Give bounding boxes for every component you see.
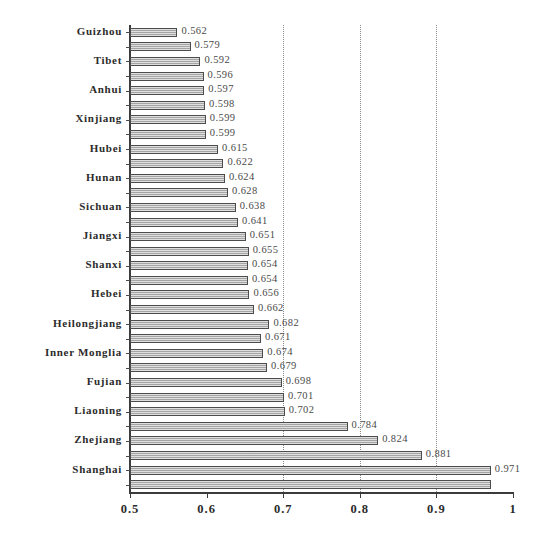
y-axis-tick	[126, 426, 131, 427]
bar[interactable]	[130, 436, 378, 445]
y-axis-tick	[126, 383, 131, 384]
y-axis-tick	[126, 32, 131, 33]
bar[interactable]	[130, 407, 285, 416]
bar-row: 0.641	[0, 218, 546, 227]
bar[interactable]	[130, 393, 284, 402]
category-label: Hunan	[0, 171, 122, 183]
y-axis-tick	[126, 47, 131, 48]
bar-value-label: 0.641	[242, 215, 268, 226]
y-axis-tick	[126, 91, 131, 92]
bar-value-label: 0.628	[232, 185, 258, 196]
bar[interactable]	[130, 57, 200, 66]
x-axis-tick	[436, 492, 437, 498]
bar[interactable]	[130, 145, 218, 154]
bar[interactable]	[130, 378, 282, 387]
y-axis-tick	[126, 266, 131, 267]
bar-row: 0.628	[0, 188, 546, 197]
bar-value-label: 0.596	[208, 69, 234, 80]
bar[interactable]	[130, 276, 248, 285]
bar[interactable]	[130, 466, 491, 475]
bar-value-label: 0.701	[288, 390, 314, 401]
y-axis-tick	[126, 295, 131, 296]
bar[interactable]	[130, 363, 267, 372]
category-label: Tibet	[0, 54, 122, 66]
bar[interactable]	[130, 247, 249, 256]
bar-value-label: 0.784	[352, 419, 378, 430]
bar[interactable]	[130, 188, 228, 197]
bar-value-label: 0.597	[208, 83, 234, 94]
bar[interactable]	[130, 218, 238, 227]
bar[interactable]	[130, 203, 236, 212]
bar-value-label: 0.971	[495, 463, 521, 474]
x-axis-tick	[130, 492, 131, 498]
bar-row: 0.655	[0, 247, 546, 256]
bar-value-label: 0.654	[252, 258, 278, 269]
bar-value-label: 0.624	[229, 171, 255, 182]
bar[interactable]	[130, 232, 246, 241]
bar-value-label: 0.615	[222, 142, 248, 153]
bar-value-label: 0.651	[250, 229, 276, 240]
bar-value-label: 0.656	[253, 287, 279, 298]
bar[interactable]	[130, 422, 348, 431]
y-axis-tick	[126, 76, 131, 77]
bar[interactable]	[130, 86, 204, 95]
category-label: Shanghai	[0, 463, 122, 475]
bar[interactable]	[130, 115, 206, 124]
y-axis-tick	[126, 164, 131, 165]
y-axis-tick	[126, 485, 131, 486]
bar[interactable]	[130, 261, 248, 270]
y-axis-tick	[126, 105, 131, 106]
bar[interactable]	[130, 130, 206, 139]
x-axis-tick-label: 0.6	[197, 502, 216, 517]
category-label: Xinjiang	[0, 112, 122, 124]
y-axis-tick	[126, 368, 131, 369]
bar-value-label: 0.638	[240, 200, 266, 211]
bar[interactable]	[130, 451, 422, 460]
category-label: Hebei	[0, 287, 122, 299]
y-axis-tick	[126, 193, 131, 194]
bar-row: 0.671	[0, 334, 546, 343]
x-axis-tick	[283, 492, 284, 498]
bar-value-label: 0.599	[210, 127, 236, 138]
x-axis-tick-label: 0.8	[350, 502, 369, 517]
bar[interactable]	[130, 320, 269, 329]
category-label: Liaoning	[0, 404, 122, 416]
bar-row: 0.679	[0, 363, 546, 372]
y-axis-tick	[126, 61, 131, 62]
bar-row: 0.599	[0, 130, 546, 139]
bar[interactable]	[130, 72, 204, 81]
bar[interactable]	[130, 159, 223, 168]
bar[interactable]	[130, 28, 177, 37]
bar[interactable]	[130, 174, 225, 183]
y-axis-tick	[126, 324, 131, 325]
x-axis-tick-label: 1	[509, 502, 516, 517]
bar-row: 0.784	[0, 422, 546, 431]
x-axis-tick	[360, 492, 361, 498]
category-label: Heilongjiang	[0, 317, 122, 329]
bar[interactable]	[130, 42, 191, 51]
bar-value-label: 0.824	[382, 433, 408, 444]
bar-value-label: 0.598	[209, 98, 235, 109]
bar-row: 0.881	[0, 451, 546, 460]
x-axis-tick-label: 0.9	[427, 502, 446, 517]
bar[interactable]	[130, 480, 491, 489]
bar-row: 0.598	[0, 101, 546, 110]
x-axis-tick	[513, 492, 514, 498]
bar[interactable]	[130, 305, 254, 314]
category-label: Guizhou	[0, 25, 122, 37]
x-axis-tick-label: 0.5	[121, 502, 140, 517]
bar-value-label: 0.671	[265, 331, 291, 342]
bar-value-label: 0.599	[210, 112, 236, 123]
bar[interactable]	[130, 101, 205, 110]
category-label: Anhui	[0, 83, 122, 95]
y-axis-tick	[126, 353, 131, 354]
category-label: Zhejiang	[0, 433, 122, 445]
bar-row: 0.662	[0, 305, 546, 314]
bar-row: 0.622	[0, 159, 546, 168]
bar[interactable]	[130, 334, 261, 343]
bar[interactable]	[130, 290, 249, 299]
y-axis-tick	[126, 120, 131, 121]
bar[interactable]	[130, 349, 263, 358]
category-label: Hubei	[0, 142, 122, 154]
y-axis-tick	[126, 310, 131, 311]
